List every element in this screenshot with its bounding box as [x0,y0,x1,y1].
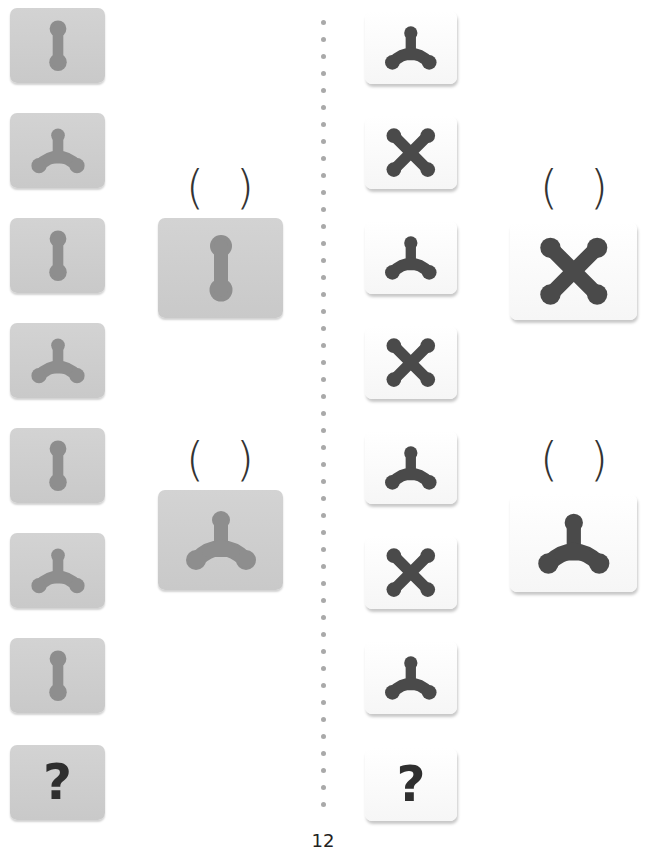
divider-dot [321,428,326,433]
divider-dot [321,530,326,535]
tri-shape-icon [374,17,448,78]
left-option-tile [158,490,283,590]
right-sequence-tile [365,431,457,504]
divider-dot [321,683,326,688]
divider-dot [321,343,326,348]
answer-blank[interactable]: () [540,436,608,488]
left-sequence-tile: ? [10,745,105,820]
close-paren: ) [236,164,254,210]
tri-shape-icon [20,539,96,602]
tri-shape-icon [523,502,625,584]
divider-dot [321,105,326,110]
open-paren: ( [186,164,204,210]
divider-dot [321,751,326,756]
divider-dot [321,479,326,484]
divider-dot [321,700,326,705]
divider-dot [321,598,326,603]
close-paren: ) [590,164,608,210]
answer-blank[interactable]: () [540,164,608,216]
divider-dot [321,802,326,807]
divider-dot [321,173,326,178]
divider-dot [321,513,326,518]
divider-dot [321,564,326,569]
page-number: 12 [0,830,646,851]
divider-dot [321,156,326,161]
divider-dot [321,309,326,314]
right-sequence-tile [365,116,457,189]
divider-dot [321,360,326,365]
bar-shape-icon [20,224,96,287]
right-option-tile [510,222,637,320]
x-shape-icon [374,542,448,603]
divider-dot [321,394,326,399]
divider-dot [321,717,326,722]
divider-dot [321,71,326,76]
divider-dot [321,649,326,654]
tri-shape-icon [374,227,448,288]
tri-shape-icon [374,647,448,708]
divider-dot [321,275,326,280]
tri-shape-icon [374,437,448,498]
x-shape-icon [374,332,448,393]
bar-shape-icon [20,14,96,77]
x-shape-icon [523,230,625,312]
left-sequence-tile [10,428,105,503]
right-sequence-tile [365,536,457,609]
open-paren: ( [186,436,204,482]
divider-dot [321,462,326,467]
tri-shape-icon [171,498,271,582]
divider-dot [321,224,326,229]
divider-dot [321,190,326,195]
close-paren: ) [236,436,254,482]
divider-dot [321,207,326,212]
right-sequence-tile [365,326,457,399]
left-sequence-tile [10,533,105,608]
divider-dot [321,88,326,93]
divider-dot [321,20,326,25]
divider-dot [321,411,326,416]
right-sequence-tile [365,641,457,714]
divider-dot [321,785,326,790]
open-paren: ( [540,164,558,210]
divider-dot [321,139,326,144]
divider-dot [321,666,326,671]
divider-dot [321,122,326,127]
open-paren: ( [540,436,558,482]
divider-dot [321,768,326,773]
left-sequence-tile [10,323,105,398]
question-mark: ? [365,754,457,812]
close-paren: ) [590,436,608,482]
left-sequence-tile [10,638,105,713]
divider-dot [321,292,326,297]
right-option-tile [510,494,637,592]
divider-dot [321,632,326,637]
answer-blank[interactable]: () [186,164,254,216]
bar-shape-icon [20,434,96,497]
divider-dot [321,581,326,586]
bar-shape-icon [20,644,96,707]
divider-dot [321,496,326,501]
right-sequence-tile: ? [365,748,457,821]
divider-dot [321,615,326,620]
divider-dot [321,326,326,331]
divider-dot [321,37,326,42]
divider-dot [321,734,326,739]
divider-dot [321,445,326,450]
right-sequence-tile [365,11,457,84]
divider-dot [321,377,326,382]
left-sequence-tile [10,113,105,188]
tri-shape-icon [20,119,96,182]
x-shape-icon [374,122,448,183]
left-sequence-tile [10,8,105,83]
answer-blank[interactable]: () [186,436,254,488]
divider-dot [321,258,326,263]
question-mark: ? [10,752,105,810]
right-sequence-tile [365,221,457,294]
divider-dot [321,547,326,552]
bar-shape-icon [171,226,271,310]
left-sequence-tile [10,218,105,293]
left-option-tile [158,218,283,318]
divider-dot [321,241,326,246]
tri-shape-icon [20,329,96,392]
divider-dot [321,54,326,59]
